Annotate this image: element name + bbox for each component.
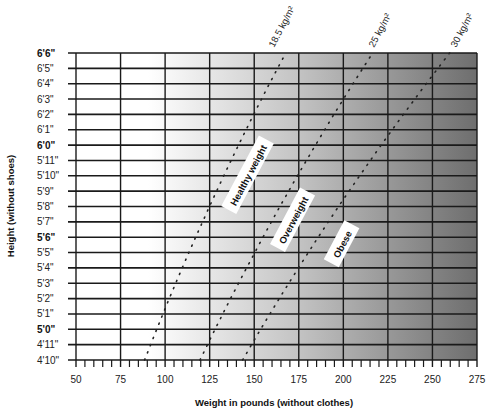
y-tick-label: 6'5": [37, 63, 54, 74]
y-tick-label: 5'11": [37, 155, 59, 166]
y-tick-label: 6'6": [37, 48, 56, 59]
y-tick-label: 5'2": [37, 293, 54, 304]
axis-ticks: [85, 360, 468, 367]
y-tick-label: 4'11": [37, 339, 59, 350]
x-tick-label: 125: [201, 374, 218, 385]
bmi-18-label: 18.5 kg/m²: [266, 4, 297, 49]
x-tick-label: 225: [380, 374, 397, 385]
y-tick-label: 5'9": [37, 186, 54, 197]
y-tick-label: 5'6": [37, 232, 56, 243]
y-tick-label: 6'4": [37, 78, 54, 89]
y-axis-title: Height (without shoes): [5, 155, 16, 257]
y-tick-label: 5'7": [37, 216, 54, 227]
bmi-25-label: 25 kg/m²: [366, 11, 393, 49]
x-tick-label: 100: [157, 374, 174, 385]
y-tick-label: 6'0": [37, 140, 56, 151]
x-tick-label: 275: [469, 374, 486, 385]
y-tick-label: 6'2": [37, 109, 54, 120]
y-tick-label: 5'0": [37, 324, 56, 335]
bmi-chart: 4'10"4'11"5'0"5'1"5'2"5'3"5'4"5'5"5'6"5'…: [0, 0, 494, 418]
y-tick-label: 5'5": [37, 247, 54, 258]
y-tick-label: 5'10": [37, 170, 60, 181]
x-tick-label: 150: [246, 374, 263, 385]
y-tick-label: 5'8": [37, 201, 54, 212]
x-axis-title: Weight in pounds (without clothes): [195, 397, 353, 408]
y-tick-label: 5'3": [37, 278, 54, 289]
y-tick-label: 6'3": [37, 94, 54, 105]
x-axis-labels: 5075100125150175200225250275: [70, 374, 485, 385]
y-tick-label: 5'1": [37, 308, 54, 319]
x-tick-label: 175: [290, 374, 307, 385]
y-tick-label: 6'1": [37, 124, 54, 135]
y-tick-label: 4'10": [37, 355, 60, 366]
x-tick-label: 75: [115, 374, 127, 385]
y-axis-labels: 4'10"4'11"5'0"5'1"5'2"5'3"5'4"5'5"5'6"5'…: [37, 48, 60, 366]
x-tick-label: 200: [335, 374, 352, 385]
bmi-30-label: 30 kg/m²: [448, 11, 475, 49]
x-tick-label: 250: [424, 374, 441, 385]
x-tick-label: 50: [70, 374, 82, 385]
y-tick-label: 5'4": [37, 262, 54, 273]
